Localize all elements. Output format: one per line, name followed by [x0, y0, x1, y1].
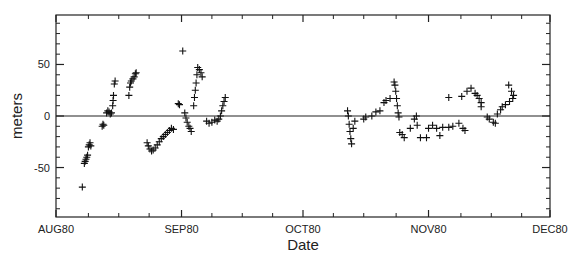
data-point — [505, 82, 512, 89]
data-point — [350, 125, 357, 132]
data-point — [414, 122, 421, 129]
data-point — [394, 102, 401, 109]
data-point — [425, 125, 432, 132]
data-point — [436, 132, 443, 139]
data-point — [368, 113, 375, 120]
data-point — [126, 84, 133, 91]
data-point — [391, 82, 398, 89]
data-point — [407, 125, 414, 132]
data-point — [439, 124, 446, 131]
y-tick-label: 50 — [38, 58, 50, 70]
data-point — [393, 95, 400, 102]
data-point — [346, 128, 353, 135]
data-point — [221, 98, 228, 105]
data-point — [509, 95, 516, 102]
x-tick-label: DEC80 — [532, 223, 567, 235]
data-point — [351, 118, 358, 125]
data-point — [345, 113, 352, 120]
data-point — [395, 109, 402, 116]
data-point — [346, 121, 353, 128]
data-point — [463, 88, 470, 95]
data-point — [175, 100, 182, 107]
data-point — [423, 134, 430, 141]
data-point — [190, 102, 197, 109]
data-point — [144, 139, 151, 146]
x-tick-labels: AUG80SEP80OCT80NOV80DEC80 — [38, 223, 568, 235]
data-point — [222, 94, 229, 101]
x-axis-title: Date — [287, 236, 319, 253]
data-point — [125, 92, 132, 99]
data-point — [218, 107, 225, 114]
y-axis-title: meters — [8, 93, 25, 139]
data-point — [506, 98, 513, 105]
data-point — [184, 119, 191, 126]
chart: AUG80SEP80OCT80NOV80DEC80 500-50 Date me… — [0, 0, 571, 262]
data-point — [468, 85, 475, 92]
data-point — [100, 122, 107, 129]
data-point — [478, 103, 485, 110]
data-point — [497, 106, 504, 113]
data-point — [191, 94, 198, 101]
data-point — [193, 80, 200, 87]
y-tick-label: -50 — [34, 162, 50, 174]
data-point — [179, 48, 186, 55]
data-point — [445, 124, 452, 131]
data-point — [417, 134, 424, 141]
data-markers — [79, 48, 517, 191]
data-point — [79, 184, 86, 191]
data-point — [429, 122, 436, 129]
data-point — [348, 140, 355, 147]
data-point — [395, 114, 402, 121]
y-tick-labels: 500-50 — [34, 58, 50, 173]
data-point — [376, 107, 383, 114]
data-point — [458, 93, 465, 100]
data-point — [391, 78, 398, 85]
data-point — [347, 135, 354, 142]
data-point — [192, 87, 199, 94]
x-tick-label: AUG80 — [38, 223, 74, 235]
x-tick-label: OCT80 — [285, 223, 320, 235]
x-tick-label: SEP80 — [164, 223, 198, 235]
data-point — [112, 77, 119, 84]
data-point — [111, 81, 118, 88]
data-point — [445, 94, 452, 101]
y-tick-label: 0 — [44, 110, 50, 122]
data-point — [392, 88, 399, 95]
data-point — [455, 120, 462, 127]
data-point — [449, 123, 456, 130]
data-point — [176, 101, 183, 108]
data-point — [372, 108, 379, 115]
data-point — [181, 109, 188, 116]
data-point — [433, 125, 440, 132]
x-tick-label: NOV80 — [410, 223, 446, 235]
data-point — [110, 92, 117, 99]
data-point — [217, 113, 224, 120]
data-point — [219, 102, 226, 109]
data-point — [145, 142, 152, 149]
data-point — [344, 107, 351, 114]
